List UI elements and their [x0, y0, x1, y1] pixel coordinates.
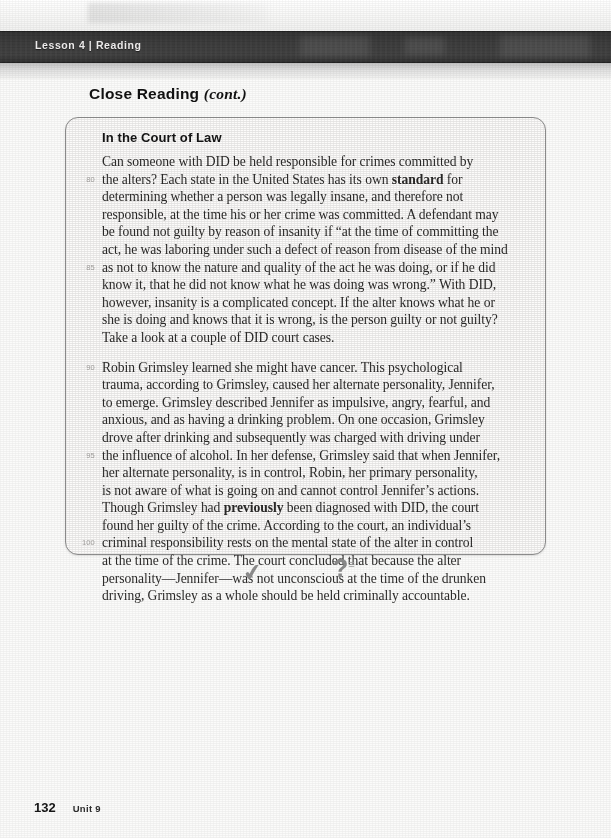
passage-line: Though Grimsley had previously been diag…	[66, 499, 547, 517]
page-title-continued: (cont.)	[204, 85, 247, 102]
passage-line-text: act, he was laboring under such a defect…	[102, 242, 508, 257]
passage-line-text: trauma, according to Grimsley, caused he…	[102, 377, 495, 392]
passage-line: drove after drinking and subsequently wa…	[66, 429, 547, 447]
checkmark-annotation-icon: ✔	[241, 558, 264, 587]
feature-box: In the Court of Law Can someone with DID…	[65, 117, 546, 555]
passage-line: determining whether a person was legally…	[66, 188, 547, 206]
line-number: 100	[75, 534, 95, 552]
passage-line-text: Take a look at a couple of DID court cas…	[102, 330, 334, 345]
passage-line-text: determining whether a person was legally…	[102, 189, 463, 204]
reading-passage: Can someone with DID be held responsible…	[66, 153, 547, 605]
page-title: Close Reading (cont.)	[89, 85, 247, 103]
passage-line-text: the alters? Each state in the United Sta…	[102, 172, 463, 187]
passage-line-text: responsible, at the time his or her crim…	[102, 207, 499, 222]
passage-line: 85as not to know the nature and quality …	[66, 259, 547, 277]
passage-line: know it, that he did not know what he wa…	[66, 276, 547, 294]
passage-line-text: know it, that he did not know what he wa…	[102, 277, 496, 292]
scan-artifact-ghost	[88, 3, 268, 23]
passage-line: is not aware of what is going on and can…	[66, 482, 547, 500]
passage-line: found her guilty of the crime. According…	[66, 517, 547, 535]
passage-line: to emerge. Grimsley described Jennifer a…	[66, 394, 547, 412]
passage-line: be found not guilty by reason of insanit…	[66, 223, 547, 241]
feature-box-heading: In the Court of Law	[102, 130, 222, 145]
passage-line: 100criminal responsibility rests on the …	[66, 534, 547, 552]
line-number: 80	[75, 171, 95, 189]
scan-blotch	[405, 37, 445, 55]
passage-line: 95the influence of alcohol. In her defen…	[66, 447, 547, 465]
paragraph-in-the-court-of-law: Can someone with DID be held responsible…	[66, 153, 547, 347]
passage-line-text: anxious, and as having a drinking proble…	[102, 412, 485, 427]
annotation-layer: ✔ ?≡	[0, 556, 611, 596]
passage-line-text: as not to know the nature and quality of…	[102, 260, 495, 275]
passage-line-text: be found not guilty by reason of insanit…	[102, 224, 498, 239]
passage-line: responsible, at the time his or her crim…	[66, 206, 547, 224]
line-number: 95	[75, 447, 95, 465]
passage-line-text: criminal responsibility rests on the men…	[102, 535, 473, 550]
passage-line: trauma, according to Grimsley, caused he…	[66, 376, 547, 394]
passage-line-text: found her guilty of the crime. According…	[102, 518, 471, 533]
passage-line: her alternate personality, is in control…	[66, 464, 547, 482]
passage-line: 80the alters? Each state in the United S…	[66, 171, 547, 189]
line-number: 90	[75, 359, 95, 377]
unit-label: Unit 9	[73, 803, 101, 814]
passage-line: anxious, and as having a drinking proble…	[66, 411, 547, 429]
scan-blotch	[300, 35, 370, 57]
passage-line: 90Robin Grimsley learned she might have …	[66, 359, 547, 377]
passage-line: she is doing and knows that it is wrong,…	[66, 311, 547, 329]
page-footer: 132 Unit 9	[34, 800, 101, 815]
page-number: 132	[34, 800, 56, 815]
passage-line-text: is not aware of what is going on and can…	[102, 483, 479, 498]
scan-top-margin	[0, 0, 611, 31]
passage-line-text: however, insanity is a complicated conce…	[102, 295, 495, 310]
passage-line-text: Can someone with DID be held responsible…	[102, 154, 473, 169]
scan-blotch	[500, 34, 590, 58]
passage-line-text: she is doing and knows that it is wrong,…	[102, 312, 498, 327]
passage-line-text: Though Grimsley had previously been diag…	[102, 500, 479, 515]
passage-line-text: her alternate personality, is in control…	[102, 465, 477, 480]
running-head-label: Lesson 4 | Reading	[35, 39, 142, 51]
question-mark-tick: ≡	[348, 558, 354, 570]
passage-line: act, he was laboring under such a defect…	[66, 241, 547, 259]
question-mark-annotation-icon: ?≡	[333, 554, 355, 583]
passage-line-text: to emerge. Grimsley described Jennifer a…	[102, 395, 490, 410]
scanned-page: Lesson 4 | Reading Close Reading (cont.)…	[0, 0, 611, 838]
passage-line-text: drove after drinking and subsequently wa…	[102, 430, 480, 445]
page-title-main: Close Reading	[89, 85, 204, 102]
running-head-shadow	[0, 63, 611, 79]
question-mark-glyph: ?	[333, 554, 348, 582]
passage-line-text: Robin Grimsley learned she might have ca…	[102, 360, 463, 375]
passage-line-text: the influence of alcohol. In her defense…	[102, 448, 500, 463]
passage-line: Take a look at a couple of DID court cas…	[66, 329, 547, 347]
running-head-bar: Lesson 4 | Reading	[0, 31, 611, 63]
passage-line: Can someone with DID be held responsible…	[66, 153, 547, 171]
passage-line: however, insanity is a complicated conce…	[66, 294, 547, 312]
line-number: 85	[75, 259, 95, 277]
